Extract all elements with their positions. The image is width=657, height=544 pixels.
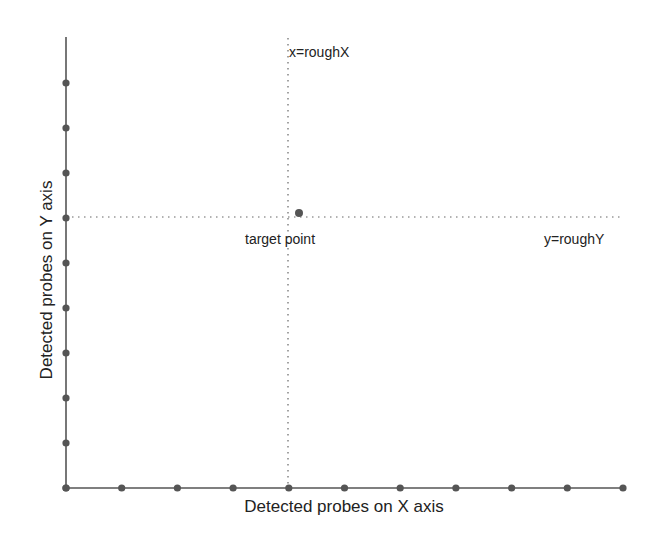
y-probe-dot	[62, 394, 69, 401]
y-probe-dot	[62, 124, 69, 131]
y-probe-dot	[62, 439, 69, 446]
vline-label: x=roughX	[289, 44, 350, 60]
y-probe-dot	[62, 169, 69, 176]
x-probe-dot	[397, 484, 404, 491]
x-probe-dot	[619, 484, 626, 491]
y-probe-dot	[62, 79, 69, 86]
x-probe-dot	[341, 484, 348, 491]
probe-diagram: x=roughX target point y=roughY Detected …	[0, 0, 657, 544]
x-probe-dot	[564, 484, 571, 491]
y-probe-dot	[62, 214, 69, 221]
hline-label: y=roughY	[544, 231, 605, 247]
y-probe-dot	[62, 349, 69, 356]
x-probe-dot	[452, 484, 459, 491]
y-axis-label: Detected probes on Y axis	[37, 181, 56, 380]
target-point-marker	[295, 209, 303, 217]
x-probe-dot	[285, 484, 292, 491]
x-probe-dot	[230, 484, 237, 491]
x-probe-dot	[174, 484, 181, 491]
target-point-label: target point	[245, 231, 315, 247]
x-probe-dot	[118, 484, 125, 491]
x-probe-dot	[508, 484, 515, 491]
x-axis-label: Detected probes on X axis	[244, 497, 443, 516]
y-probe-dot	[62, 259, 69, 266]
y-probe-dot	[62, 304, 69, 311]
x-probe-dot	[62, 484, 69, 491]
